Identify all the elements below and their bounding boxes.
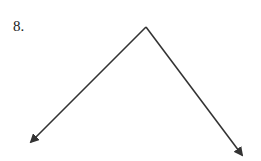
- left-ray: [31, 27, 146, 142]
- right-ray: [146, 27, 242, 155]
- angle-diagram: [0, 0, 261, 161]
